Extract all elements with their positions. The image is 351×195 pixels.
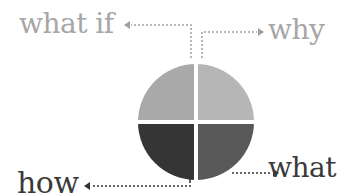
connector-why [202, 32, 257, 58]
connector-what-if [131, 25, 191, 58]
quadrant-why [198, 60, 262, 120]
connector-how [92, 175, 190, 186]
arrow-left-icon [124, 21, 130, 29]
quadrant-how [130, 124, 194, 184]
label-what: what [268, 154, 336, 182]
quadrant-what-if [130, 60, 194, 120]
label-why: why [268, 16, 324, 44]
arrow-left-icon [84, 182, 90, 190]
arrow-right-icon [258, 28, 264, 36]
label-how: how [17, 168, 79, 195]
quadrant-what [198, 124, 262, 184]
label-what-if: what if [19, 10, 114, 38]
